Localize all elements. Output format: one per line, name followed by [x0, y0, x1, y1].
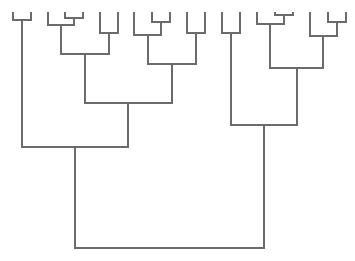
dendrogram-canvas [0, 0, 355, 261]
dendrogram-link-m8 [187, 12, 205, 33]
dendrogram-link-m2 [65, 12, 83, 18]
dendrogram-link-m17 [270, 24, 323, 68]
dendrogram-link-m16 [310, 12, 337, 36]
dendrogram-link-m4 [100, 12, 118, 33]
dendrogram-link-m5 [61, 25, 109, 54]
dendrogram-link-m12 [222, 12, 240, 33]
dendrogram-link-m7 [134, 12, 161, 35]
dendrogram-link-m15 [328, 12, 346, 22]
dendrogram-link-m14 [257, 12, 284, 24]
dendrogram-link-m11 [22, 20, 128, 147]
dendrogram-link-m10 [85, 54, 172, 103]
dendrogram-link-m13 [275, 12, 293, 15]
dendrogram-link-m19 [75, 125, 264, 248]
dendrogram-link-m9 [148, 33, 196, 64]
dendrogram-link-m6 [152, 12, 170, 22]
dendrogram-link-m18 [231, 33, 297, 125]
dendrogram [0, 0, 355, 261]
dendrogram-link-m1 [13, 12, 31, 20]
